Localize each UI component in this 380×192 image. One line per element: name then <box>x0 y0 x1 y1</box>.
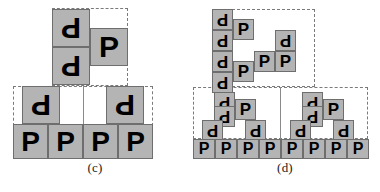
block-glyph: P <box>217 53 228 70</box>
block-glyph: P <box>217 74 228 91</box>
block-upright-p: P <box>347 139 369 159</box>
block-rotated-p: P <box>275 30 296 51</box>
block-rotated-p: P <box>52 9 90 47</box>
block-rotated-p: P <box>52 47 90 85</box>
block-upright-p: P <box>118 124 153 159</box>
block-upright-p: P <box>83 124 118 159</box>
block-glyph: P <box>21 128 40 156</box>
block-upright-p: P <box>259 139 281 159</box>
block-upright-p: P <box>303 139 325 159</box>
block-glyph: P <box>115 90 135 120</box>
block-upright-p: P <box>215 139 237 159</box>
block-glyph: P <box>295 122 306 139</box>
block-rotated-p: P <box>245 120 266 141</box>
lower-region-divider <box>83 86 84 126</box>
block-upright-p: P <box>90 28 128 66</box>
block-glyph: P <box>99 32 119 62</box>
block-glyph: P <box>287 141 298 157</box>
block-glyph: P <box>259 53 270 70</box>
block-upright-p: P <box>237 139 259 159</box>
block-glyph: P <box>243 141 254 157</box>
block-glyph: P <box>331 141 342 157</box>
block-upright-p: P <box>235 99 256 120</box>
block-upright-p: P <box>233 61 254 82</box>
block-glyph: P <box>265 141 276 157</box>
block-glyph: P <box>61 13 81 43</box>
block-glyph: P <box>91 128 110 156</box>
block-rotated-p: P <box>22 86 60 124</box>
block-glyph: P <box>280 53 291 70</box>
block-rotated-p: P <box>106 86 144 124</box>
lower-region-divider <box>280 87 281 139</box>
block-glyph: P <box>207 122 218 139</box>
block-glyph: P <box>61 51 81 81</box>
block-upright-p: P <box>254 51 275 72</box>
block-upright-p: P <box>325 139 347 159</box>
block-glyph: P <box>126 128 145 156</box>
block-rotated-p: P <box>333 120 354 141</box>
block-upright-p: P <box>48 124 83 159</box>
block-rotated-p: P <box>212 9 233 30</box>
block-glyph: P <box>217 32 228 49</box>
block-glyph: P <box>199 141 210 157</box>
block-rotated-p: P <box>212 72 233 93</box>
block-rotated-p: P <box>212 51 233 72</box>
block-glyph: P <box>280 32 291 49</box>
block-glyph: P <box>56 128 75 156</box>
block-glyph: P <box>238 21 249 38</box>
block-upright-p: P <box>233 19 254 40</box>
block-glyph: P <box>328 101 339 118</box>
block-rotated-p: P <box>290 120 311 141</box>
block-glyph: P <box>238 63 249 80</box>
block-glyph: P <box>250 122 261 139</box>
block-glyph: P <box>217 11 228 28</box>
block-glyph: P <box>338 122 349 139</box>
panel-c: PPPPPPPPP (c) <box>0 0 190 192</box>
block-glyph: P <box>31 90 51 120</box>
block-glyph: P <box>309 141 320 157</box>
block-upright-p: P <box>323 99 344 120</box>
block-upright-p: P <box>13 124 48 159</box>
block-upright-p: P <box>275 51 296 72</box>
panel-d-caption: (d) <box>190 160 380 176</box>
panel-d: PPPPPPPPPPPPPPPPPPPPPPPPPPP (d) <box>190 0 380 192</box>
block-rotated-p: P <box>202 120 223 141</box>
block-glyph: P <box>353 141 364 157</box>
block-upright-p: P <box>281 139 303 159</box>
block-glyph: P <box>221 141 232 157</box>
block-glyph: P <box>240 101 251 118</box>
figure-stage: PPPPPPPPP (c) PPPPPPPPPPPPPPPPPPPPPPPPPP… <box>0 0 380 192</box>
block-rotated-p: P <box>212 30 233 51</box>
panel-c-caption: (c) <box>0 160 190 176</box>
block-upright-p: P <box>193 139 215 159</box>
